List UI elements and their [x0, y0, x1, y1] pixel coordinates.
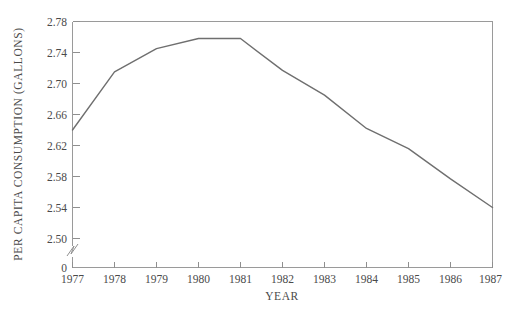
x-tick-label-10: 1987	[479, 273, 502, 285]
data-series-line	[73, 39, 493, 208]
x-tick-label-7: 1984	[355, 273, 378, 285]
x-tick-label-9: 1986	[439, 273, 462, 285]
x-tick-label-5: 1982	[271, 273, 294, 285]
chart-figure: 2.78 2.74 2.70 2.66 2.62 2.58 2.54 2.50 …	[0, 0, 516, 313]
y-tick-label-6: 2.54	[47, 202, 67, 214]
x-tick-label-2: 1979	[145, 273, 168, 285]
y-axis-title: PER CAPITA CONSUMPTION (GALLONS)	[12, 27, 25, 260]
y-axis-break-icon	[67, 244, 78, 256]
y-tick-label-0: 2.78	[47, 16, 67, 28]
y-tick-marks	[73, 22, 80, 239]
y-tick-label-5: 2.58	[47, 171, 67, 183]
x-axis-title: YEAR	[265, 290, 299, 302]
x-tick-labels: 1977 1978 1979 1980 1981 1982 1983 1984 …	[61, 273, 502, 285]
x-tick-label-6: 1983	[313, 273, 336, 285]
x-tick-label-0: 1977	[61, 273, 84, 285]
y-tick-label-7: 2.50	[47, 233, 67, 245]
y-tick-labels: 2.78 2.74 2.70 2.66 2.62 2.58 2.54 2.50 …	[47, 16, 67, 274]
x-tick-marks	[73, 262, 493, 268]
y-tick-label-4: 2.62	[47, 140, 67, 152]
x-tick-label-3: 1980	[187, 273, 210, 285]
y-tick-label-1: 2.74	[47, 47, 67, 59]
x-tick-label-1: 1978	[103, 273, 126, 285]
x-tick-label-8: 1985	[397, 273, 420, 285]
y-tick-label-2: 2.70	[47, 78, 67, 90]
y-tick-label-8: 0	[61, 262, 67, 274]
line-chart-canvas: 2.78 2.74 2.70 2.66 2.62 2.58 2.54 2.50 …	[0, 0, 516, 313]
y-tick-label-3: 2.66	[47, 109, 67, 121]
x-tick-label-4: 1981	[229, 273, 252, 285]
plot-frame	[73, 22, 493, 268]
